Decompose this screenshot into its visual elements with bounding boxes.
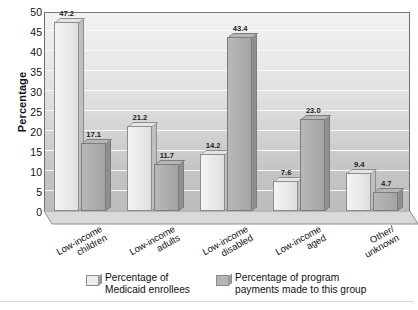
plot-area: 47.217.121.211.714.243.47.623.09.44.7 xyxy=(44,12,410,212)
bar-payments: 11.7 xyxy=(154,164,179,211)
y-tick-label: 35 xyxy=(22,67,42,78)
bar-payments: 23.0 xyxy=(300,119,325,211)
bar-value-label: 21.2 xyxy=(132,114,147,122)
bar-value-label: 17.1 xyxy=(86,131,101,139)
x-category-label: Low-incomeaged xyxy=(260,224,328,274)
y-tick-label: 25 xyxy=(22,107,42,118)
x-category-label: Other/unknown xyxy=(334,224,402,274)
bar-side-face xyxy=(179,160,184,211)
bar-side-face xyxy=(252,33,257,211)
legend-label: Percentage of programpayments made to th… xyxy=(235,272,366,295)
legend-entry-enrollees[interactable]: Percentage ofMedicaid enrollees xyxy=(86,272,190,295)
legend-label-line: Percentage of program xyxy=(235,272,366,284)
x-category-label: Low-incomeadults xyxy=(114,224,182,274)
bar-front-face xyxy=(200,154,225,211)
bar-value-label: 7.6 xyxy=(281,169,292,177)
gridline xyxy=(45,30,409,31)
bar-front-face xyxy=(227,37,252,211)
bar-enrollees: 9.4 xyxy=(346,173,371,211)
bottom-divider xyxy=(0,301,414,302)
y-axis-tick-labels: 05101520253035404550 xyxy=(22,6,42,218)
bar-payments: 17.1 xyxy=(81,143,106,211)
legend-label-line: Percentage of xyxy=(105,272,190,284)
bar-value-label: 9.4 xyxy=(354,161,365,169)
legend-entry-payments[interactable]: Percentage of programpayments made to th… xyxy=(216,272,366,295)
y-tick-label: 45 xyxy=(22,27,42,38)
bar-payments: 4.7 xyxy=(373,192,398,211)
bar-front-face xyxy=(273,181,298,211)
y-tick-label: 0 xyxy=(22,207,42,218)
legend-label: Percentage ofMedicaid enrollees xyxy=(105,272,190,295)
x-category-label: Low-incomedisabled xyxy=(187,224,255,274)
bar-side-face xyxy=(325,115,330,211)
y-tick-label: 40 xyxy=(22,47,42,58)
bar-value-label: 43.4 xyxy=(233,25,248,33)
y-tick-label: 10 xyxy=(22,167,42,178)
legend-color-swatch xyxy=(86,275,99,286)
bar-front-face xyxy=(373,192,398,211)
bar-value-label: 47.2 xyxy=(59,10,74,18)
bar-value-label: 11.7 xyxy=(160,152,174,160)
bar-enrollees: 47.2 xyxy=(54,22,79,211)
y-tick-mark xyxy=(66,212,70,213)
bar-front-face xyxy=(346,173,371,211)
bar-value-label: 14.2 xyxy=(206,142,221,150)
bar-front-face xyxy=(127,126,152,211)
y-tick-label: 30 xyxy=(22,87,42,98)
chart-legend: Percentage ofMedicaid enrolleesPercentag… xyxy=(0,272,414,302)
bar-front-face xyxy=(81,143,106,211)
legend-label-line: payments made to this group xyxy=(235,284,366,296)
y-tick-label: 5 xyxy=(22,187,42,198)
legend-color-swatch xyxy=(216,275,229,286)
bar-front-face xyxy=(154,164,179,211)
bar-value-label: 4.7 xyxy=(381,180,392,188)
y-tick-label: 20 xyxy=(22,127,42,138)
legend-label-line: Medicaid enrollees xyxy=(105,284,190,296)
bar-enrollees: 14.2 xyxy=(200,154,225,211)
bar-payments: 43.4 xyxy=(227,37,252,211)
x-category-label: Low-incomechildren xyxy=(41,224,109,274)
y-tick-label: 15 xyxy=(22,147,42,158)
bar-enrollees: 7.6 xyxy=(273,181,298,211)
gridline xyxy=(45,10,409,11)
bar-front-face xyxy=(300,119,325,211)
bar-front-face xyxy=(54,22,79,211)
bar-enrollees: 21.2 xyxy=(127,126,152,211)
bar-side-face xyxy=(106,139,111,211)
x-axis-category-labels: Low-incomechildrenLow-incomeadultsLow-in… xyxy=(44,222,414,272)
bar-value-label: 23.0 xyxy=(306,107,321,115)
y-tick-label: 50 xyxy=(22,7,42,18)
